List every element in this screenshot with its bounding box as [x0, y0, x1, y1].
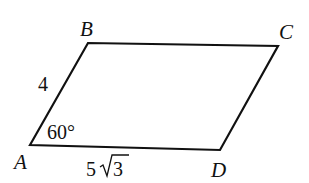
vertex-label-d: D	[210, 158, 226, 182]
side-ad-length: 5 3	[86, 155, 129, 180]
vertex-label-b: B	[80, 17, 93, 41]
side-ad-radicand: 3	[113, 158, 123, 180]
side-ab-length: 4	[38, 73, 48, 95]
side-ad-coefficient: 5	[86, 158, 96, 180]
vertex-label-c: C	[279, 20, 294, 44]
vertex-label-a: A	[12, 150, 27, 174]
angle-a-measure: 60°	[47, 121, 75, 143]
parallelogram-diagram: B C A D 4 60° 5 3	[0, 0, 309, 183]
